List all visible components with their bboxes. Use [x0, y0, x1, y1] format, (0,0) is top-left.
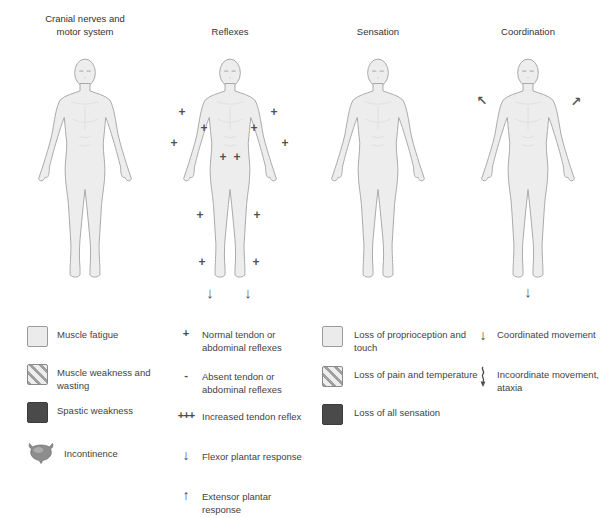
- legend-label: Incontinence: [64, 442, 176, 461]
- tendon-reflex-plus-marker: +: [170, 136, 177, 150]
- legend-label: Normal tendon or abdominal reflexes: [202, 326, 308, 354]
- tendon-reflex-plus-marker: +: [271, 105, 278, 119]
- figure-title-reflexes: Reflexes: [170, 12, 290, 38]
- figure-title-sensation: Sensation: [318, 12, 438, 38]
- coordination-diagonal-arrow: ↖: [477, 93, 488, 108]
- legend-label: Loss of all sensation: [354, 404, 482, 420]
- ankle-reflex-plus-marker: +: [253, 255, 260, 269]
- tendon-reflex-plus-marker: +: [200, 121, 207, 135]
- tendon-reflex-plus-marker: +: [282, 136, 289, 150]
- ankle-reflex-plus-marker: +: [198, 255, 205, 269]
- body-figure-sensation: [316, 57, 440, 307]
- minus-symbol: -: [176, 368, 196, 382]
- dark-square-swatch: [322, 404, 343, 425]
- abdominal-reflex-plus-marker: +: [220, 150, 227, 164]
- legend-label: Incoordinate movement, ataxia: [497, 366, 609, 394]
- figure-title-coordination: Coordination: [468, 12, 588, 38]
- legend-label: Absent tendon or abdominal reflexes: [202, 368, 308, 396]
- tendon-reflex-plus-marker: +: [251, 121, 258, 135]
- light-square-swatch: [322, 326, 343, 347]
- body-figure-cranial-motor: [23, 57, 147, 307]
- neurological-signs-diagram: Cranial nerves and motor system Reflexes…: [0, 0, 610, 518]
- knee-reflex-plus-marker: +: [254, 208, 261, 222]
- up-arrow-icon: ↑: [176, 488, 196, 503]
- coordination-down-arrow: ↓: [524, 283, 532, 300]
- tendon-reflex-plus-marker: +: [178, 105, 185, 119]
- legend-label: Loss of proprioception and touch: [354, 326, 482, 354]
- dark-square-swatch: [27, 402, 48, 423]
- bladder-icon: [27, 442, 55, 468]
- down-arrow-icon: ↓: [176, 448, 196, 463]
- legend-label: Extensor plantar response: [202, 488, 308, 516]
- light-square-swatch: [27, 326, 48, 347]
- hatched-square-swatch: [322, 366, 343, 387]
- legend-motor: Muscle fatigue Muscle weakness and wasti…: [27, 326, 187, 496]
- legend-label: Spastic weakness: [57, 402, 169, 418]
- abdominal-reflex-plus-marker: +: [233, 150, 240, 164]
- body-figure-coordination: ↖↗↓: [466, 57, 590, 307]
- hatched-square-swatch: [27, 364, 48, 385]
- figure-title-cranial-motor: Cranial nerves and motor system: [25, 12, 145, 38]
- wavy-down-arrow-icon: [476, 366, 490, 392]
- flexor-plantar-arrow: ↓: [244, 284, 252, 301]
- flexor-plantar-arrow: ↓: [206, 284, 214, 301]
- knee-reflex-plus-marker: +: [196, 208, 203, 222]
- coordination-diagonal-arrow: ↗: [571, 94, 582, 109]
- triple-plus-symbol: +++: [176, 408, 196, 422]
- legend-label: Flexor plantar response: [202, 448, 308, 464]
- legend-reflexes: + Normal tendon or abdominal reflexes - …: [176, 326, 316, 506]
- legend-label: Muscle weakness and wasting: [57, 364, 169, 392]
- plus-symbol: +: [176, 326, 196, 340]
- legend-label: Increased tendon reflex: [202, 408, 308, 424]
- legend-label: Coordinated movement: [497, 326, 609, 342]
- legend-label: Loss of pain and temperature: [354, 366, 482, 382]
- legend-sensation: Loss of proprioception and touch Loss of…: [322, 326, 482, 446]
- down-arrow-icon: ↓: [476, 326, 490, 344]
- body-figure-reflexes: ++++++++++++↓↓: [168, 57, 292, 307]
- legend-label: Muscle fatigue: [57, 326, 169, 342]
- legend-coordination: ↓ Coordinated movement Incoordinate move…: [476, 326, 606, 416]
